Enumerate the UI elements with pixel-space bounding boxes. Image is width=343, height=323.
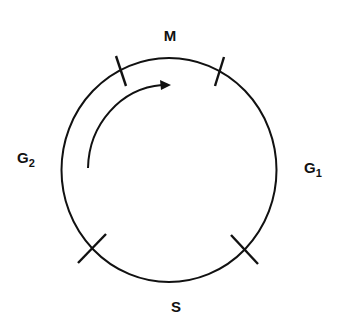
direction-arrow-icon — [88, 80, 171, 168]
phase-label-g1: G1 — [304, 159, 322, 179]
boundary-tick-m-g1 — [215, 57, 224, 86]
cell-cycle-diagram: M G1 S G2 — [0, 0, 343, 323]
phase-label-m: M — [164, 27, 177, 44]
phase-label-g2: G2 — [17, 149, 35, 169]
phase-label-s: S — [171, 298, 181, 315]
